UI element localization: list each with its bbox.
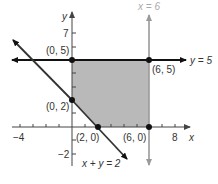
label-point-0-2: (0, 2): [46, 101, 69, 112]
tick-label-neg4: −4: [13, 132, 25, 143]
label-x-equals-6: x = 6: [137, 1, 160, 12]
label-point-0-5: (0, 5): [46, 45, 69, 56]
point-6-0: [146, 124, 152, 130]
point-0-2: [69, 97, 75, 103]
label-y-equals-5: y = 5: [189, 55, 212, 66]
x-axis-label: x: [188, 132, 195, 143]
point-6-5: [146, 57, 152, 63]
label-point-6-5: (6, 5): [152, 64, 175, 75]
point-0-5: [69, 57, 75, 63]
shaded-region: [72, 60, 149, 127]
graph-canvas: y x −4 8 7 −2 (0, 5) (6, 5) (0, 2) (2, 0…: [0, 0, 218, 184]
label-point-6-0: (6, 0): [123, 132, 146, 143]
y-axis-label: y: [61, 11, 68, 22]
tick-label-7: 7: [63, 28, 69, 39]
tick-label-neg2: −2: [58, 149, 70, 160]
point-2-0: [95, 124, 101, 130]
label-point-2-0: (2, 0): [76, 132, 99, 143]
linear-inequality-graph: y x −4 8 7 −2 (0, 5) (6, 5) (0, 2) (2, 0…: [0, 0, 218, 184]
tick-label-8: 8: [172, 132, 178, 143]
label-x-plus-y-equals-2: x + y = 2: [81, 158, 121, 169]
